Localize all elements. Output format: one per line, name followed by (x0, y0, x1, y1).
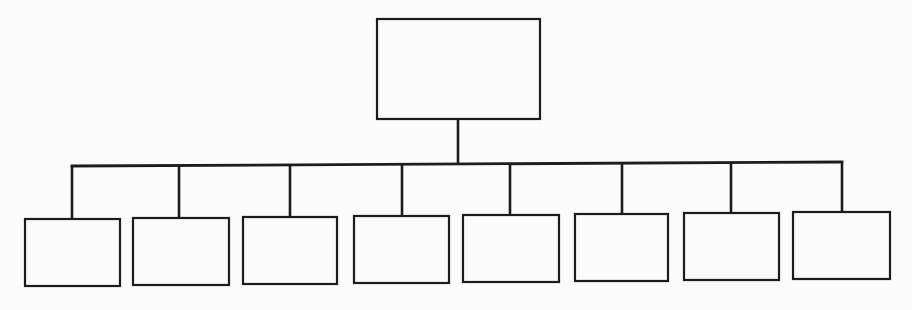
child-node-box-5 (463, 215, 559, 282)
child-node-box-3 (243, 217, 337, 284)
horizontal-bus-line (72, 162, 842, 166)
root-node-box (377, 19, 540, 119)
child-node-box-6 (575, 214, 668, 281)
child-node-box-8 (793, 212, 890, 279)
child-node-box-1 (25, 219, 120, 286)
child-node-box-4 (354, 216, 449, 283)
child-node-box-2 (133, 218, 229, 285)
org-chart-diagram (0, 0, 912, 310)
child-node-box-7 (684, 213, 779, 280)
